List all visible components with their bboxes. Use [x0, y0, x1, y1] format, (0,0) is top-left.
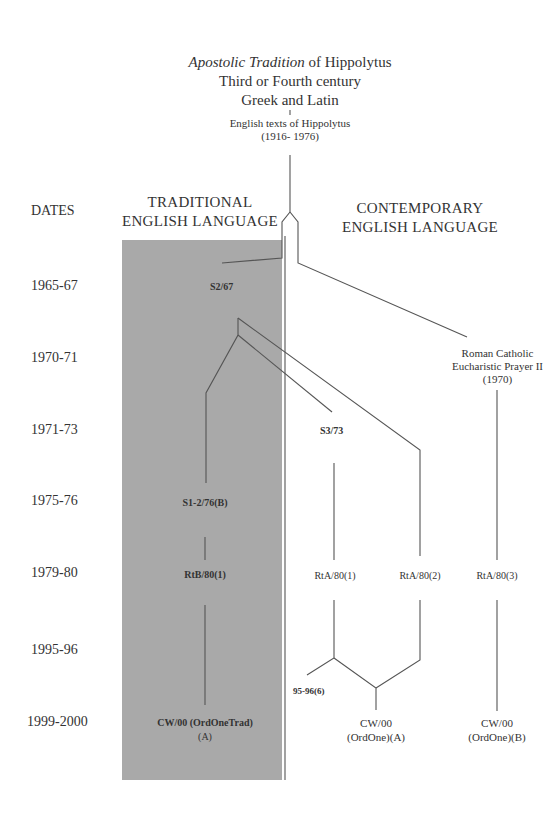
date-row-1995-96: 1995-96 [31, 642, 78, 658]
traditional-header-line1: TRADITIONAL [110, 193, 290, 212]
contemporary-header-line1: CONTEMPORARY [310, 199, 530, 218]
node-cw00-a-line2: (OrdOne)(A) [326, 730, 426, 744]
title-rest: of Hippolytus [305, 54, 392, 70]
node-rtb-80-1: RtB/80(1) [155, 569, 255, 580]
english-texts-dates: (1916- 1976) [190, 130, 390, 143]
traditional-header-line2: ENGLISH LANGUAGE [100, 212, 300, 231]
node-s1-2-76b: S1-2/76(B) [155, 497, 255, 508]
node-rc-line3: (1970) [405, 373, 549, 386]
date-row-1999-2000: 1999-2000 [27, 714, 88, 730]
date-row-1970-71: 1970-71 [31, 350, 78, 366]
source-languages: Greek and Latin [140, 91, 440, 110]
node-s3-73: S3/73 [320, 425, 343, 436]
node-cw00-trad-line1: CW/00 (OrdOneTrad) [130, 716, 280, 730]
source-century: Third or Fourth century [140, 72, 440, 91]
date-row-1971-73: 1971-73 [31, 422, 78, 438]
contemporary-header-line2: ENGLISH LANGUAGE [310, 218, 530, 237]
node-cw00-b-line2: (OrdOne)(B) [447, 730, 547, 744]
node-rc-line1: Roman Catholic [405, 347, 549, 360]
node-rta-80-3: RtA/80(3) [457, 570, 537, 581]
node-rta-80-2: RtA/80(2) [380, 570, 460, 581]
english-texts-label: English texts of Hippolytus [190, 117, 390, 130]
title-italic: Apostolic Tradition [189, 54, 305, 70]
date-row-1975-76: 1975-76 [31, 493, 78, 509]
source-title: Apostolic Tradition of Hippolytus [140, 53, 440, 72]
date-row-1979-80: 1979-80 [31, 565, 78, 581]
node-cw00-b-line1: CW/00 [447, 716, 547, 730]
node-rta-80-1: RtA/80(1) [295, 570, 375, 581]
dates-column-header: DATES [31, 203, 75, 219]
node-rc-line2: Eucharistic Prayer II [405, 360, 549, 373]
node-cw00-a-line1: CW/00 [326, 716, 426, 730]
node-cw00-trad-line2: (A) [130, 730, 280, 744]
node-s2-67: S2/67 [210, 281, 233, 292]
date-row-1965-67: 1965-67 [31, 278, 78, 294]
node-95-96-6: 95-96(6) [293, 686, 325, 696]
